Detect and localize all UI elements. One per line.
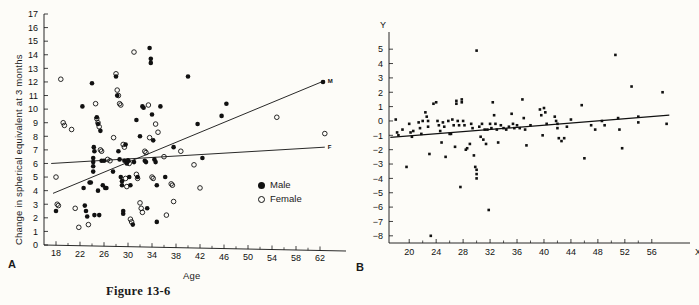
panel-b-letter: B [356,261,364,273]
panel-a-x-tick-label: 62 [315,253,325,263]
data-point [489,123,492,126]
data-point [436,120,439,123]
data-point-male [84,209,89,214]
data-point [401,128,404,131]
data-point-female [198,186,203,191]
data-point [460,101,463,104]
data-point-male [85,214,90,219]
panel-b-y-tick-label: −1 [373,131,383,141]
data-point-female [179,149,184,154]
data-point [566,125,569,128]
data-point [409,131,412,134]
data-point-female [119,103,124,108]
panel-a-y-tick-label: 3 [33,200,38,210]
data-point-female [73,206,78,211]
data-point [432,102,435,105]
data-point-female [77,225,82,230]
panel-b-y-tick-label: −7 [373,217,383,227]
data-point [428,153,431,156]
data-point [455,100,458,103]
data-point-male [195,122,200,127]
data-point [583,157,586,160]
data-point-female [169,182,174,187]
data-point [580,104,583,107]
data-point-male [200,156,205,161]
panel-a-x-axis-title: Age [183,270,201,281]
data-point [621,147,624,150]
data-point-male [92,213,97,218]
data-point-male [91,156,96,161]
panel-a-y-tick-label: 0 [33,240,38,250]
data-point-female [98,148,103,153]
panel-b-y-tick-label: −2 [373,145,383,155]
data-point-male [96,188,101,193]
data-point [473,154,476,157]
data-point [479,135,482,138]
data-point [544,111,547,114]
data-point [570,118,573,121]
panel-a-y-tick-label: 16 [28,23,38,33]
panel-a-x-axis [44,245,346,251]
figure-13-6: 0123456789101112131415161718222630343842… [0,0,699,305]
data-point [594,128,597,131]
data-point-male [141,105,146,110]
data-point [497,141,500,144]
panel-b-plot: YX543210−1−2−3−4−5−6−7−82024283236404448… [350,0,699,305]
data-point-female [150,175,155,180]
legend-label-male: Male [270,178,291,192]
panel-a-plot: 0123456789101112131415161718222630343842… [0,0,350,305]
data-point-female [143,149,148,154]
data-point [522,117,525,120]
panel-a-x-tick-label: 30 [123,250,133,260]
data-point [419,127,422,130]
panel-b-y-tick-label: 0 [378,116,383,126]
panel-a: 0123456789101112131415161718222630343842… [0,0,350,305]
data-point-male [131,222,136,227]
data-point [540,114,543,117]
panel-b-y-axis-marker: Y [380,20,386,30]
legend-item-female: Female [258,192,302,206]
panel-b-x-tick-label: 24 [431,247,441,257]
panel-b-x-tick-label: 20 [404,247,414,257]
data-point [516,124,519,127]
panel-a-y-tick-label: 8 [33,132,38,142]
data-point-female [156,130,161,135]
data-point-female [132,50,137,55]
data-point [425,115,428,118]
data-point [475,49,478,52]
data-point-female [54,175,59,180]
data-point [456,120,459,123]
panel-b-y-tick-label: 2 [378,88,383,98]
data-point [510,112,513,115]
panel-a-y-tick-label: 7 [33,145,38,155]
data-point-female [153,122,158,127]
data-point-female [111,135,116,140]
data-point-male [219,114,224,119]
data-point [444,156,447,159]
panel-a-y-tick-label: 9 [33,118,38,128]
data-point-male [92,145,97,150]
data-point-female [151,176,156,181]
data-point [556,127,559,130]
panel-a-legend: Male Female [258,178,302,206]
regression-line-label-male: M [328,78,333,84]
data-point [466,147,469,150]
regression-line-male [53,81,325,194]
data-point [459,186,462,189]
panel-b-y-tick-label: 3 [378,73,383,83]
data-point-female [147,135,152,140]
data-point [630,85,633,88]
panel-b-y-tick-label: −3 [373,159,383,169]
panel-a-x-tick-label: 42 [195,251,205,261]
data-point-male [91,164,96,169]
data-point-male [134,118,139,123]
data-point [471,127,474,130]
data-point [470,123,473,126]
data-point-male [111,169,116,174]
data-point [394,118,397,121]
panel-a-x-tick-label: 26 [99,249,109,259]
data-point [405,166,408,169]
panel-b-x-tick-label: 40 [539,247,549,257]
data-point-male [119,175,124,180]
data-point [427,125,430,128]
